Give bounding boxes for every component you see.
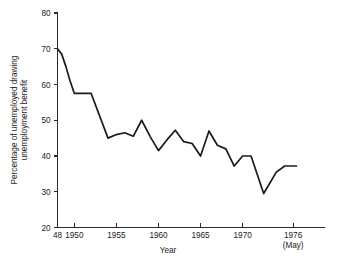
chart-container: 20304050607080 4819501955196019651970197… [0,0,337,268]
y-axis-tick-label: 50 [41,116,51,125]
x-axis-tick-label: 1970 [234,231,253,240]
y-axis-tick-label: 60 [41,81,51,90]
y-axis-ticks [54,13,58,228]
x-axis-tick-labels: 48195019551960196519701976(May) [53,231,304,250]
x-axis-tick-label: 1965 [191,231,210,240]
x-axis-tick-label: 1950 [65,231,84,240]
x-axis-tick-label: 1976 [284,231,303,240]
y-axis-tick-label: 70 [41,45,51,54]
y-axis-tick-label: 40 [41,152,51,161]
y-axis-title-line2: unemployment benefit [20,79,29,160]
x-axis-ticks [58,223,294,228]
data-series-line [58,49,297,194]
x-axis-title: Year [160,246,177,255]
y-axis-tick-labels: 20304050607080 [41,9,51,233]
x-axis-tick-label: 1960 [149,231,168,240]
x-axis-tick-label: 48 [53,231,63,240]
y-axis-tick-label: 80 [41,9,51,18]
y-axis-tick-label: 30 [41,188,51,197]
x-axis-tick-sublabel: (May) [283,241,304,250]
line-chart: 20304050607080 4819501955196019651970197… [0,0,337,268]
x-axis-tick-label: 1955 [107,231,126,240]
y-axis-title-line1: Percentage of unemployed drawing [10,55,19,184]
y-axis-tick-label: 20 [41,224,51,233]
